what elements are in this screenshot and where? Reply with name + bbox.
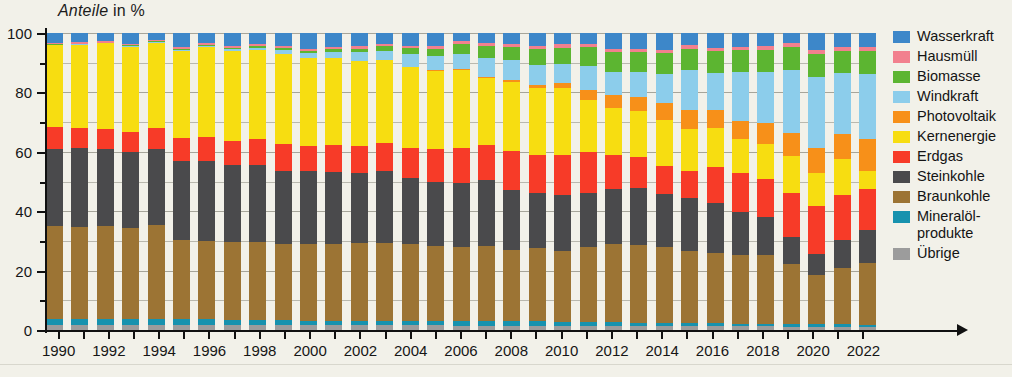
x-axis-label-1990: 1990 (42, 342, 75, 359)
bar-segment-wasserkraft (376, 33, 393, 43)
x-axis-tick (234, 332, 236, 339)
bar-segment-photovoltaik (656, 103, 673, 120)
x-axis-tick (208, 332, 210, 339)
legend-label: Hausmüll (917, 48, 977, 65)
bar-segment-erdgas (834, 195, 851, 240)
legend-item[interactable]: Mineralöl- produkte (893, 208, 1011, 241)
x-axis-tick (485, 332, 487, 339)
bar-segment-windkraft (859, 74, 876, 139)
bar-segment-kernenergie (808, 173, 825, 207)
bar-2021 (834, 33, 851, 330)
bar-segment-windkraft (808, 77, 825, 147)
bar-segment-erdgas (808, 206, 825, 254)
bar-segment-photovoltaik (580, 90, 597, 100)
x-axis-tick (712, 332, 714, 339)
x-axis-tick (158, 332, 160, 339)
legend-item[interactable]: Windkraft (893, 88, 1011, 105)
bar-segment-braunkohle (224, 242, 241, 320)
bar-segment-steinkohle (351, 173, 368, 243)
legend-item[interactable]: Braunkohle (893, 188, 1011, 205)
legend-item[interactable]: Biomasse (893, 68, 1011, 85)
bar-segment-braunkohle (275, 244, 292, 320)
bar-segment-windkraft (478, 58, 495, 77)
bar-segment-braunkohle (859, 263, 876, 324)
bar-segment-wasserkraft (427, 33, 444, 46)
bar-segment-windkraft (376, 51, 393, 60)
legend-item[interactable]: Wasserkraft (893, 28, 1011, 45)
bar-segment-braunkohle (529, 248, 546, 322)
bar-segment-photovoltaik (757, 123, 774, 144)
bar-segment-steinkohle (732, 212, 749, 254)
bar-1991 (71, 33, 88, 330)
bar-segment-erdgas (707, 167, 724, 203)
legend-label: Windkraft (917, 88, 978, 105)
bar-segment-braunkohle (808, 275, 825, 324)
bar-segment-biomasse (605, 52, 622, 72)
legend-item[interactable]: Erdgas (893, 148, 1011, 165)
bar-segment-kernenergie (402, 67, 419, 148)
legend-item[interactable]: Hausmüll (893, 48, 1011, 65)
bar-segment-biomasse (630, 52, 647, 72)
bar-segment-kernenergie (783, 156, 800, 193)
bar-segment-wasserkraft (554, 33, 571, 44)
bar-segment-steinkohle (834, 240, 851, 268)
x-axis-label-1998: 1998 (243, 342, 276, 359)
bar-segment-steinkohle (478, 180, 495, 246)
bar-segment-windkraft (351, 52, 368, 60)
bar-1999 (275, 33, 292, 330)
x-axis-label-2010: 2010 (545, 342, 578, 359)
y-axis-tick (37, 211, 46, 213)
bar-segment-erdgas (376, 143, 393, 171)
legend-item[interactable]: Kernenergie (893, 128, 1011, 145)
x-axis-line (45, 330, 960, 332)
bar-segment-braunkohle (630, 245, 647, 323)
bar-segment-braunkohle (503, 250, 520, 321)
x-axis-label-1996: 1996 (193, 342, 226, 359)
bar-segment-wasserkraft (630, 33, 647, 48)
bar-segment-steinkohle (630, 188, 647, 245)
bar-segment-kernenergie (300, 58, 317, 146)
bar-segment-kernenergie (681, 129, 698, 171)
bar-2003 (376, 33, 393, 330)
bar-segment-braunkohle (97, 226, 114, 319)
bar-segment-steinkohle (783, 237, 800, 264)
x-axis-tick (83, 332, 85, 339)
x-axis-tick (309, 332, 311, 339)
axis-title-rest: in % (108, 2, 145, 19)
x-axis-label-2014: 2014 (646, 342, 679, 359)
bar-segment-steinkohle (275, 171, 292, 245)
bar-segment-erdgas (351, 146, 368, 173)
x-axis-tick (535, 332, 537, 339)
x-axis-tick (737, 332, 739, 339)
bar-segment-erdgas (580, 152, 597, 192)
legend-item[interactable]: Übrige (893, 245, 1011, 262)
bar-segment-kernenergie (173, 51, 190, 138)
bar-segment-steinkohle (122, 152, 139, 227)
legend-swatch-icon (893, 51, 910, 63)
x-axis-tick (133, 332, 135, 339)
legend-item[interactable]: Photovoltaik (893, 108, 1011, 125)
bar-segment-erdgas (503, 151, 520, 190)
x-axis-tick (586, 332, 588, 339)
x-axis-tick (385, 332, 387, 339)
bar-2020 (808, 33, 825, 330)
bar-segment-erdgas (122, 132, 139, 152)
bar-2011 (580, 33, 597, 330)
bar-segment-kernenergie (656, 120, 673, 166)
bar-segment-kernenergie (707, 128, 724, 167)
bar-segment-kernenergie (97, 43, 114, 128)
bar-segment-biomasse (554, 48, 571, 65)
bar-segment-kernenergie (580, 100, 597, 153)
bar-segment-kernenergie (46, 45, 63, 127)
legend-swatch-icon (893, 111, 910, 123)
bar-2009 (529, 33, 546, 330)
legend-label: Erdgas (917, 148, 963, 165)
bar-segment-windkraft (427, 56, 444, 70)
legend-item[interactable]: Steinkohle (893, 168, 1011, 185)
bar-2001 (325, 33, 342, 330)
bar-segment-biomasse (503, 47, 520, 60)
bar-segment-photovoltaik (630, 97, 647, 112)
bar-2022 (859, 33, 876, 330)
y-axis-minor-tick (40, 241, 46, 243)
bar-2000 (300, 33, 317, 330)
